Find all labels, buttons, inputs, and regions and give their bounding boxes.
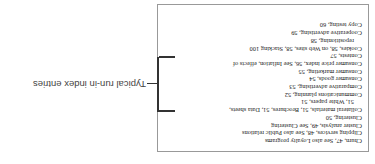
- index-entry: Cookies, 58, on Web sites, 58, Stacking …: [229, 45, 362, 53]
- index-entry: Cooperative advertising, 59: [229, 29, 362, 37]
- index-entry: Clustering, 50: [229, 114, 362, 122]
- index-entry: Consumer marketing, 55: [229, 68, 362, 76]
- index-entry: Cluster analysis, 49, See Clustering: [229, 122, 362, 130]
- rotated-figure: Churn, 47, See also Loyalty programs Cli…: [0, 0, 375, 164]
- index-entry: Consumer price index, 56, See Inflation,…: [229, 60, 362, 68]
- bracket-vertical: [158, 57, 160, 112]
- index-entry: Collateral materials, 51, Brochures, 51,…: [229, 106, 362, 114]
- index-entry: 51, White papers, 51: [229, 99, 362, 107]
- index-entry: Copy testing, 60: [229, 22, 362, 30]
- bracket-bottom-tick: [159, 57, 175, 59]
- index-entry: Contests, 57: [229, 53, 362, 61]
- bracket-top-tick: [159, 111, 175, 113]
- index-entry: Clipping services, 48, See also Public r…: [229, 130, 362, 138]
- leader-line: [147, 83, 159, 84]
- annotation-label: Typical run-in index entries: [33, 79, 146, 90]
- index-entry: Consumer goods, 54: [229, 76, 362, 84]
- index-entry: Comparative advertising, 53: [229, 83, 362, 91]
- index-entry: Communications planning, 52: [229, 91, 362, 99]
- index-entries: Churn, 47, See also Loyalty programs Cli…: [229, 22, 362, 145]
- index-entry: repositioning, 58: [229, 37, 362, 45]
- index-box: Churn, 47, See also Loyalty programs Cli…: [157, 4, 369, 152]
- index-entry: Churn, 47, See also Loyalty programs: [229, 137, 362, 145]
